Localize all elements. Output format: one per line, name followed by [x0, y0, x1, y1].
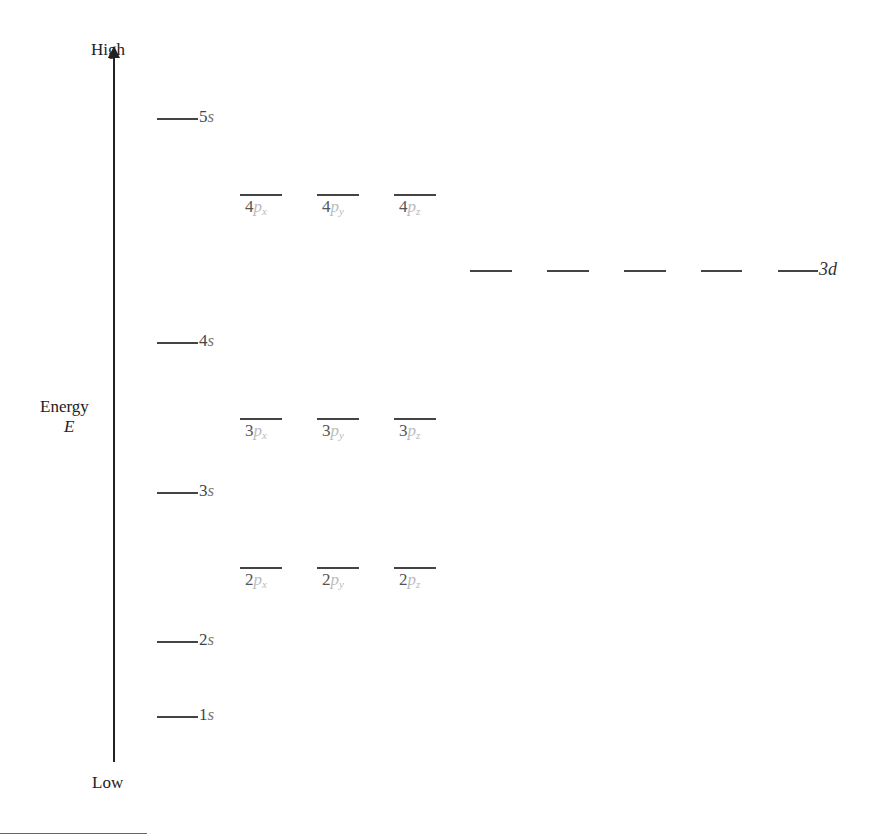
- level-3pz-label: 3pz: [399, 421, 420, 441]
- level-1s-label: 1s: [199, 705, 214, 725]
- level-4s-label: 4s: [199, 331, 214, 351]
- level-3d-label: 3d: [819, 259, 837, 280]
- level-3d-line-1: [470, 270, 512, 272]
- level-1s-line: [157, 716, 198, 718]
- level-3pz-line: [394, 418, 436, 420]
- level-4pz-line: [394, 194, 436, 196]
- level-3px-label: 3px: [245, 421, 267, 441]
- level-2s-line: [157, 641, 198, 643]
- level-4s-line: [157, 342, 198, 344]
- level-2s-label: 2s: [199, 630, 214, 650]
- level-2px-label: 2px: [245, 570, 267, 590]
- axis-low-label: Low: [92, 773, 123, 793]
- level-2py-label: 2py: [322, 570, 344, 590]
- level-3d-line-5: [778, 270, 818, 272]
- level-3s-label: 3s: [199, 481, 214, 501]
- footnote-rule: [0, 833, 147, 834]
- level-4px-line: [240, 194, 282, 196]
- level-3d-line-2: [547, 270, 589, 272]
- level-3py-label: 3py: [322, 421, 344, 441]
- level-5s-line: [157, 118, 198, 120]
- level-3s-line: [157, 492, 198, 494]
- level-3d-line-4: [701, 270, 742, 272]
- level-2pz-line: [394, 567, 436, 569]
- axis-energy-label: Energy: [40, 397, 89, 417]
- axis-energy-symbol: E: [64, 417, 74, 437]
- level-2px-line: [240, 567, 282, 569]
- level-5s-label: 5s: [199, 107, 214, 127]
- axis-high-label: High: [91, 40, 125, 60]
- level-4py-label: 4py: [322, 197, 344, 217]
- level-2pz-label: 2pz: [399, 570, 420, 590]
- level-3d-line-3: [624, 270, 666, 272]
- level-2py-line: [317, 567, 359, 569]
- energy-axis-line: [113, 52, 115, 762]
- level-4py-line: [317, 194, 359, 196]
- level-4pz-label: 4pz: [399, 197, 420, 217]
- level-3px-line: [240, 418, 282, 420]
- level-3py-line: [317, 418, 359, 420]
- level-4px-label: 4px: [245, 197, 267, 217]
